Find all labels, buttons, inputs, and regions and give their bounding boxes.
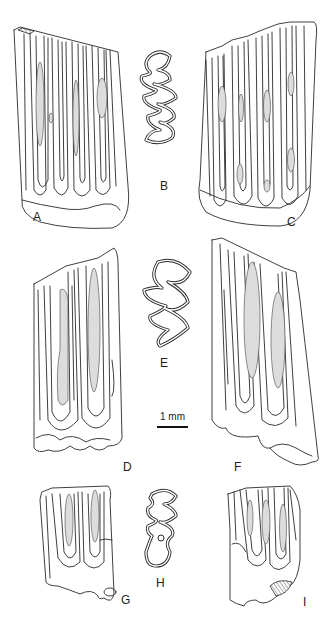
panel-label-d: D xyxy=(123,461,132,473)
specimen-a-drawing xyxy=(14,27,129,228)
panel-label-e: E xyxy=(160,357,168,369)
specimen-g-drawing xyxy=(40,486,116,600)
figure-drawing xyxy=(0,0,333,618)
panel-label-f: F xyxy=(234,461,241,473)
panel-label-a: A xyxy=(33,211,41,223)
panel-label-c: C xyxy=(287,216,296,228)
panel-label-h: H xyxy=(156,577,165,589)
scale-bar xyxy=(157,426,188,428)
panel-label-i: I xyxy=(303,596,306,608)
scale-bar-label: 1 mm xyxy=(160,412,185,422)
specimen-d-drawing xyxy=(34,248,122,452)
specimen-c-drawing xyxy=(199,22,317,226)
specimen-b-drawing xyxy=(141,52,176,143)
specimen-f-drawing xyxy=(212,238,318,465)
specimen-i-drawing xyxy=(228,486,300,606)
panel-label-b: B xyxy=(160,180,168,192)
specimen-h-drawing xyxy=(146,490,176,566)
panel-label-g: G xyxy=(121,594,130,606)
specimen-e-drawing xyxy=(144,260,190,346)
